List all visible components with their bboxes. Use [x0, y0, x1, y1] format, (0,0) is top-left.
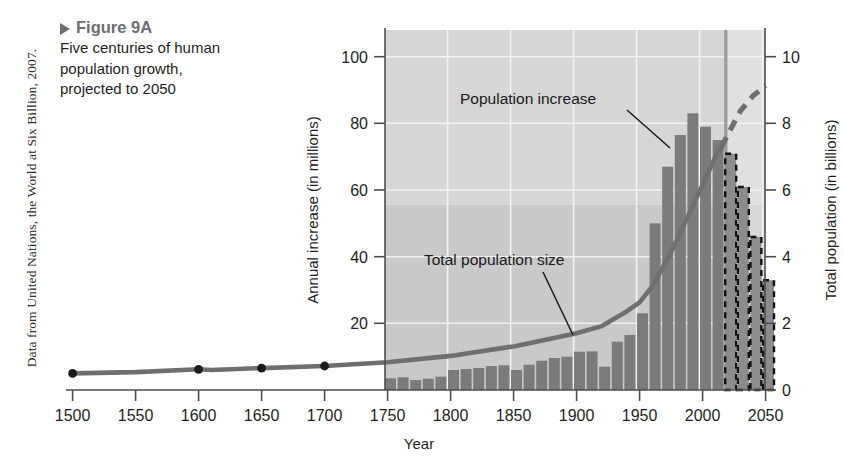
x-axis-title: Year: [404, 435, 434, 452]
x-axis-tick-label: 1850: [496, 407, 532, 424]
left-axis-title: Annual increase (in millions): [304, 116, 321, 304]
historical-data-points: [68, 362, 329, 378]
x-axis-tick-label: 2000: [685, 407, 721, 424]
x-axis-tick-label: 2050: [748, 407, 784, 424]
left-y-axis: 20 40 60 80 100 Annual increase (in mill…: [304, 28, 385, 390]
bar: [662, 167, 673, 390]
bar: [486, 366, 497, 390]
bar: [385, 378, 396, 390]
left-axis-tick-label: 40: [350, 249, 368, 266]
right-axis-tick-label: 0: [782, 382, 791, 399]
population-growth-chart: Population increase Total population siz…: [0, 0, 844, 458]
x-axis-tick-label: 1900: [559, 407, 595, 424]
right-axis-tick-label: 10: [782, 49, 800, 66]
bar-projected: [750, 237, 761, 390]
bar: [713, 140, 724, 390]
left-axis-tick-label: 60: [350, 182, 368, 199]
left-axis-tick-label: 100: [341, 49, 368, 66]
bar: [549, 358, 560, 390]
right-y-axis: 0 2 4 6 8 10 Total population (in billio…: [765, 28, 839, 399]
bar: [599, 367, 610, 390]
x-axis-tick-label: 1950: [622, 407, 658, 424]
bar: [624, 335, 635, 390]
x-axis-tick-label: 1800: [433, 407, 469, 424]
right-axis-tick-label: 8: [782, 115, 791, 132]
x-axis-tick-label: 1600: [181, 407, 217, 424]
bar: [687, 113, 698, 390]
left-axis-tick-label: 80: [350, 115, 368, 132]
data-point: [68, 369, 77, 378]
annotation-label: Total population size: [424, 251, 564, 268]
left-axis-tick-label: 20: [350, 315, 368, 332]
right-axis-tick-label: 4: [782, 249, 791, 266]
x-axis-tick-label: 1550: [118, 407, 154, 424]
bar: [561, 357, 572, 390]
bar: [612, 342, 623, 390]
data-point: [320, 362, 329, 371]
x-axis: 1500 1550 1600 1650 1700 1750 1800 1850 …: [55, 390, 784, 452]
data-point: [257, 364, 266, 373]
x-axis-tick-label: 1700: [307, 407, 343, 424]
x-axis-tick-label: 1750: [370, 407, 406, 424]
bar: [410, 380, 421, 390]
bar-projected: [738, 187, 749, 390]
bar: [511, 370, 522, 390]
bar: [650, 223, 661, 390]
bar: [461, 369, 472, 390]
bar-projected: [725, 154, 736, 390]
right-axis-title: Total population (in billions): [822, 120, 839, 301]
bar: [587, 351, 598, 390]
bar: [675, 135, 686, 390]
x-axis-tick-label: 1500: [55, 407, 91, 424]
bar: [498, 365, 509, 390]
x-axis-tick-label: 1650: [244, 407, 280, 424]
bar: [473, 368, 484, 390]
bar: [536, 361, 547, 390]
right-axis-tick-label: 2: [782, 315, 791, 332]
bar: [423, 379, 434, 390]
bar: [448, 370, 459, 390]
bar: [637, 313, 648, 390]
bar: [524, 365, 535, 390]
bar: [574, 352, 585, 390]
bar: [435, 377, 446, 390]
annotation-label: Population increase: [460, 90, 596, 107]
bar: [398, 377, 409, 390]
data-point: [194, 365, 203, 374]
right-axis-tick-label: 6: [782, 182, 791, 199]
